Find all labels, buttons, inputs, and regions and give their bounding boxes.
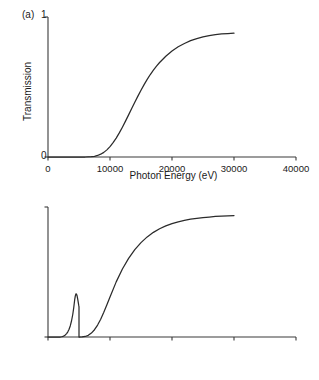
panel-a-ytick-top: 1 [41, 9, 47, 20]
transmission-curve [48, 33, 234, 157]
panel-a-axes [45, 17, 297, 161]
panel-b-plot [0, 190, 319, 380]
x-tick-label: 10000 [97, 163, 123, 174]
transmission-curve [48, 216, 234, 337]
panel-a-ytick-bottom: 0 [41, 150, 47, 161]
panel-a-plot [0, 0, 319, 190]
x-tick-label: 30000 [221, 163, 247, 174]
panel-b-axes [45, 207, 297, 341]
panel-a: (a) 1 0 Transmission Photon Energy (eV) … [0, 0, 319, 190]
panel-a-label: (a) [22, 9, 34, 20]
panel-a-y-axis-label: Transmission [22, 62, 33, 121]
x-tick-label: 20000 [159, 163, 185, 174]
panel-b: (b) 1 0 Transmission Photon Energy (eV) … [0, 190, 319, 380]
x-tick-label: 40000 [283, 163, 309, 174]
x-tick-label: 0 [45, 163, 50, 174]
